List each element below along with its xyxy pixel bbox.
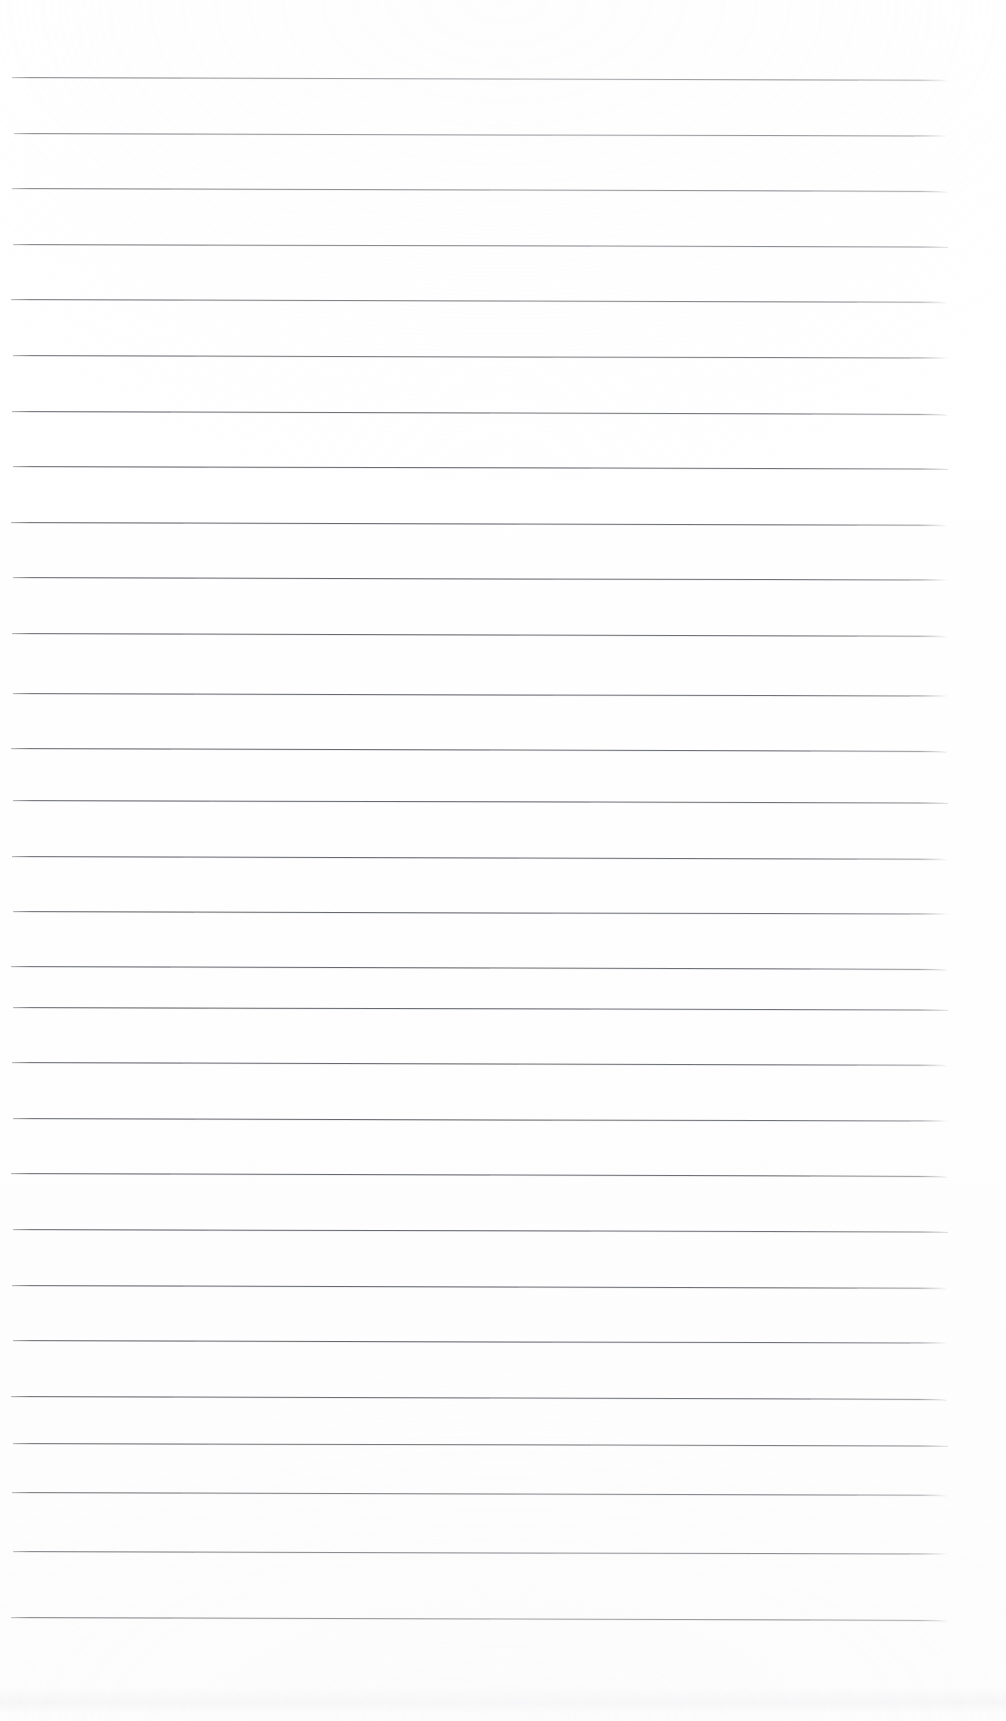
ruled-line	[13, 244, 948, 248]
scanned-page	[0, 0, 1006, 1721]
ruled-line	[12, 1062, 947, 1066]
ruled-line	[12, 1285, 947, 1289]
ruled-line	[12, 633, 947, 637]
ruled-line	[13, 1118, 948, 1122]
ruled-line	[12, 188, 947, 192]
ruled-line	[13, 1443, 948, 1447]
ruled-line	[13, 466, 948, 470]
ruled-line	[11, 522, 947, 526]
ruled-line	[12, 856, 947, 860]
ruled-line	[11, 1396, 947, 1400]
ruled-line	[12, 77, 948, 81]
ruled-line	[12, 411, 947, 415]
ruled-line	[13, 800, 948, 804]
ruled-line	[13, 1229, 948, 1233]
ruled-line	[12, 1492, 947, 1496]
ruled-line	[13, 1340, 948, 1344]
ruled-line	[13, 355, 948, 359]
ruled-line	[13, 693, 948, 697]
ruled-line	[14, 133, 948, 137]
ruled-lines-layer	[0, 0, 1006, 1721]
ruled-line	[11, 299, 947, 303]
ruled-line	[13, 911, 948, 915]
ruled-line	[11, 1173, 947, 1177]
ruled-line	[13, 577, 948, 581]
ruled-line	[11, 1617, 947, 1621]
ruled-line	[11, 748, 947, 752]
ruled-line	[13, 1007, 948, 1011]
ruled-line	[13, 1551, 948, 1555]
ruled-line	[11, 966, 947, 970]
